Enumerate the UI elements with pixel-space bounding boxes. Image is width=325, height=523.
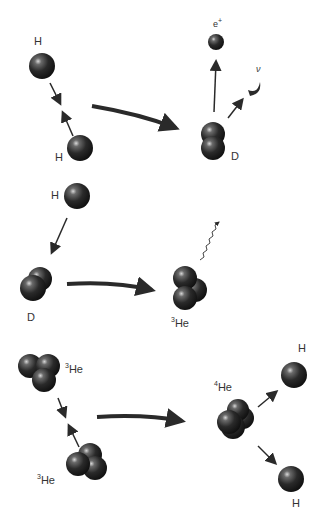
arrow-positron	[214, 62, 216, 112]
arrow-h2-in	[63, 113, 73, 136]
pp-chain-diagram	[0, 0, 325, 523]
label-he3b: 3He	[37, 473, 55, 486]
deuteron-front	[20, 275, 46, 301]
he3-bottom	[173, 286, 197, 310]
label-h-out-2: H	[292, 497, 300, 509]
label-h-out-1: H	[298, 342, 306, 354]
neutrino	[248, 82, 260, 96]
arrow-neutrino	[228, 100, 242, 118]
label-h1: H	[34, 35, 42, 47]
proton-h	[64, 183, 90, 209]
label-stage2-he3: 3He	[171, 316, 189, 329]
arrow-h1-in	[50, 83, 60, 103]
reaction-arrow-2	[67, 283, 152, 290]
label-h2: H	[55, 151, 63, 163]
positron	[208, 34, 224, 50]
arrow-h-out-1	[258, 392, 276, 407]
label-stage2-h: H	[51, 189, 59, 201]
reaction-arrow-1	[92, 106, 176, 128]
proton-h1	[29, 53, 55, 79]
he3b-n	[66, 452, 90, 476]
gamma-ray	[200, 222, 219, 260]
proton-out-1	[281, 362, 307, 388]
stage-2	[20, 183, 219, 310]
arrow-he3b-in	[69, 426, 79, 447]
he4-front	[217, 410, 241, 434]
arrow-h-in	[52, 218, 67, 252]
proton-out-2	[278, 466, 304, 492]
proton-h2	[67, 135, 93, 161]
he3a-n	[32, 368, 56, 392]
reaction-arrow-3	[97, 416, 182, 421]
stage-1	[29, 34, 260, 161]
label-stage2-d: D	[27, 311, 35, 323]
label-neutrino: ν	[256, 64, 261, 74]
deuteron-p	[201, 136, 225, 160]
label-he4: 4He	[214, 380, 232, 393]
arrow-he3a-in	[58, 398, 65, 416]
arrow-h-out-2	[258, 446, 275, 463]
label-he3a: 3He	[65, 362, 83, 375]
stage-3	[18, 354, 307, 492]
label-d: D	[231, 150, 239, 162]
label-positron: e+	[213, 17, 222, 29]
